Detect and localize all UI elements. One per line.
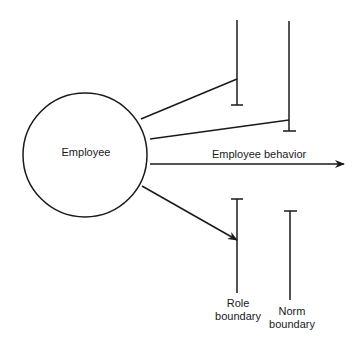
- behavior-arrow-to-role-boundary: [142, 186, 237, 240]
- role-boundary-label-line2: boundary: [208, 310, 268, 323]
- norm-boundary-label-line2: boundary: [260, 318, 324, 331]
- role-boundary-upper: [231, 20, 243, 105]
- role-boundary-label: Role boundary: [208, 297, 268, 323]
- norm-boundary-lower: [284, 211, 297, 300]
- diagram-canvas: [0, 0, 360, 338]
- norm-boundary-label: Norm boundary: [260, 305, 324, 331]
- role-boundary-lower: [231, 199, 243, 293]
- role-boundary-label-line1: Role: [208, 297, 268, 310]
- norm-boundary-label-line1: Norm: [260, 305, 324, 318]
- norm-boundary-upper: [283, 21, 296, 131]
- employee-label: Employee: [55, 146, 117, 159]
- behavior-line-to-norm-boundary: [150, 120, 289, 139]
- behavior-line-to-role-boundary: [141, 79, 237, 119]
- employee-behavior-label: Employee behavior: [212, 148, 306, 161]
